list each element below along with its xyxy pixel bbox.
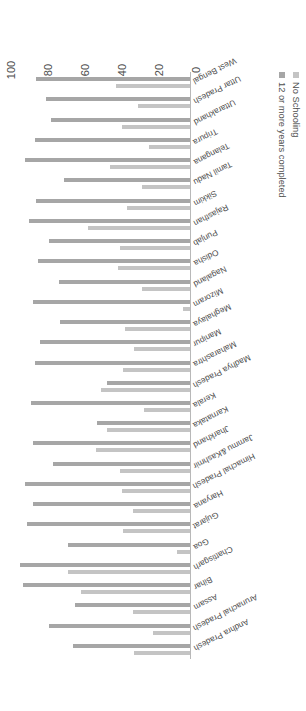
bar-twelve-plus-years (25, 482, 190, 486)
category-label: Odisha (192, 248, 220, 269)
bar-group (5, 497, 190, 517)
value-tick-label: 40 (116, 50, 128, 90)
bar-twelve-plus-years (98, 421, 191, 425)
bar-group (5, 477, 190, 497)
bar-no-schooling (133, 610, 190, 614)
bar-no-schooling (122, 489, 190, 493)
chart-legend: No Schooling12 or more years completed (276, 72, 302, 659)
bar-group (5, 355, 190, 375)
category-label: Assam (192, 592, 219, 613)
bar-twelve-plus-years (53, 462, 190, 466)
bar-no-schooling (149, 145, 190, 149)
bar-twelve-plus-years (27, 522, 190, 526)
bar-no-schooling (101, 388, 190, 392)
bar-group (5, 315, 190, 335)
value-tick-label: 80 (42, 50, 54, 90)
bar-twelve-plus-years (31, 401, 190, 405)
category-label: Sikkim (192, 188, 219, 208)
bar-no-schooling (123, 529, 190, 533)
category-label: Tripura (192, 127, 220, 148)
legend-label: 12 or more years completed (277, 82, 287, 198)
bar-group (5, 517, 190, 537)
bar-twelve-plus-years (36, 199, 190, 203)
bar-twelve-plus-years (35, 138, 190, 142)
category-label: Goa (192, 536, 211, 552)
bar-twelve-plus-years (107, 381, 190, 385)
bar-group (5, 619, 190, 639)
bar-twelve-plus-years (49, 624, 190, 628)
bar-twelve-plus-years (33, 502, 190, 506)
bar-group (5, 113, 190, 133)
bar-group (5, 457, 190, 477)
bar-no-schooling (120, 469, 190, 473)
bar-group (5, 234, 190, 254)
bar-no-schooling (88, 226, 190, 230)
bar-no-schooling (153, 631, 190, 635)
bar-twelve-plus-years (49, 239, 190, 243)
bar-group (5, 598, 190, 618)
chart-figure-rotator: Andhra PradeshArunachal PradeshAssamBiha… (0, 0, 306, 711)
bar-twelve-plus-years (35, 361, 190, 365)
bar-group (5, 275, 190, 295)
bar-no-schooling (142, 185, 190, 189)
bar-no-schooling (133, 509, 190, 513)
bar-twelve-plus-years (38, 259, 190, 263)
bar-twelve-plus-years (46, 97, 190, 101)
legend-label: No Schooling (291, 82, 301, 137)
bar-twelve-plus-years (51, 118, 190, 122)
value-tick-label: 20 (153, 50, 165, 90)
bar-twelve-plus-years (33, 441, 190, 445)
bar-group (5, 376, 190, 396)
bar-no-schooling (135, 651, 191, 655)
value-tick-label: 100 (5, 50, 17, 90)
bar-group (5, 194, 190, 214)
bar-group (5, 396, 190, 416)
bar-twelve-plus-years (73, 644, 190, 648)
bar-twelve-plus-years (29, 219, 190, 223)
bar-group (5, 558, 190, 578)
bar-no-schooling (96, 448, 190, 452)
bar-no-schooling (120, 246, 190, 250)
bar-twelve-plus-years (59, 280, 190, 284)
bar-twelve-plus-years (61, 320, 191, 324)
bar-no-schooling (125, 327, 190, 331)
bar-no-schooling (68, 570, 190, 574)
category-label: Gujarat (192, 511, 221, 532)
grouped-bar-chart: Andhra PradeshArunachal PradeshAssamBiha… (0, 0, 306, 711)
bar-no-schooling (177, 550, 190, 554)
bar-twelve-plus-years (64, 178, 190, 182)
bar-group (5, 254, 190, 274)
bar-group (5, 173, 190, 193)
bar-group (5, 214, 190, 234)
bar-no-schooling (135, 347, 191, 351)
bar-twelve-plus-years (33, 300, 190, 304)
bar-twelve-plus-years (75, 603, 190, 607)
legend-swatch-icon (293, 72, 299, 78)
bar-no-schooling (144, 408, 190, 412)
plot-area (5, 72, 190, 659)
bar-group (5, 153, 190, 173)
category-label: Haryana (192, 488, 225, 511)
bar-twelve-plus-years (24, 583, 191, 587)
bar-no-schooling (110, 165, 190, 169)
bar-twelve-plus-years (25, 158, 190, 162)
bar-no-schooling (183, 307, 190, 311)
bar-twelve-plus-years (68, 543, 190, 547)
category-label: Kerala (192, 391, 218, 411)
value-tick-label: 60 (79, 50, 91, 90)
category-label: Bihar (192, 575, 214, 593)
bar-twelve-plus-years (40, 340, 190, 344)
bar-group (5, 295, 190, 315)
bar-twelve-plus-years (20, 563, 190, 567)
legend-entry: 12 or more years completed (277, 72, 288, 198)
bar-group (5, 335, 190, 355)
value-axis-tick-labels: 020406080100 (0, 30, 306, 70)
bar-group (5, 538, 190, 558)
bar-no-schooling (118, 266, 190, 270)
bar-group (5, 436, 190, 456)
legend-swatch-icon (279, 72, 285, 78)
bar-no-schooling (123, 368, 190, 372)
bar-no-schooling (81, 590, 190, 594)
value-tick-label: 0 (190, 50, 202, 90)
bar-no-schooling (127, 206, 190, 210)
